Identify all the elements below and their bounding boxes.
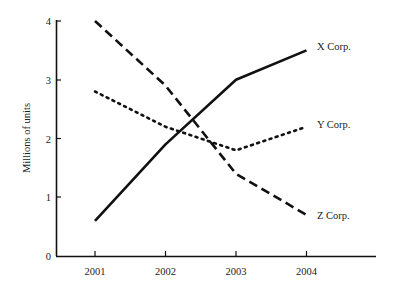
y-tick-label: 3 [46, 75, 51, 86]
legend-label-x-corp: X Corp. [317, 41, 351, 52]
x-tick-label: 2004 [296, 266, 318, 277]
line-chart: 4 3 2 1 0 Millions of units 2001 2002 20… [0, 0, 395, 287]
y-tick-label: 4 [46, 16, 52, 27]
legend-label-z-corp: Z Corp. [317, 210, 350, 221]
x-tick-label: 2001 [85, 266, 106, 277]
x-tick-label: 2003 [226, 266, 247, 277]
y-tick-label: 2 [46, 134, 51, 145]
legend-label-y-corp: Y Corp. [317, 119, 350, 130]
series-line-y-corp [95, 92, 307, 151]
y-tick-label: 0 [46, 251, 51, 262]
x-ticks [95, 251, 307, 256]
y-axis-title: Millions of units [21, 103, 32, 173]
x-tick-label: 2002 [155, 266, 176, 277]
y-tick-label: 1 [46, 192, 51, 203]
